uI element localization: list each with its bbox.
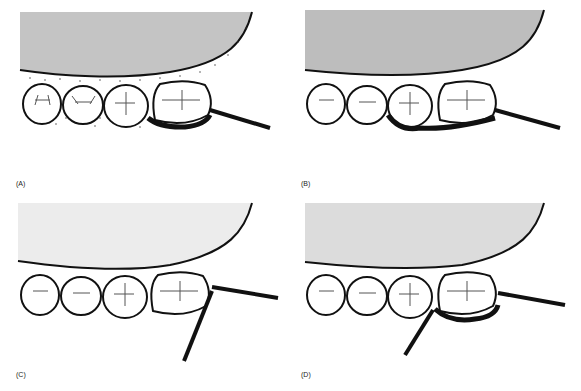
dental-illustration-b (290, 0, 581, 195)
panel-label-d: (D) (301, 371, 311, 378)
panel-label-c: (C) (16, 371, 26, 378)
dental-illustration-a (0, 0, 290, 195)
panel-label-a: (A) (16, 180, 25, 187)
dental-illustration-d (290, 195, 581, 391)
dental-illustration-c (0, 195, 290, 391)
panel-label-b: (B) (301, 180, 310, 187)
panel-d: (D) (290, 195, 580, 390)
panel-a: (A) (0, 0, 290, 195)
panel-c: (C) (0, 195, 290, 390)
panel-b: (B) (290, 0, 580, 195)
